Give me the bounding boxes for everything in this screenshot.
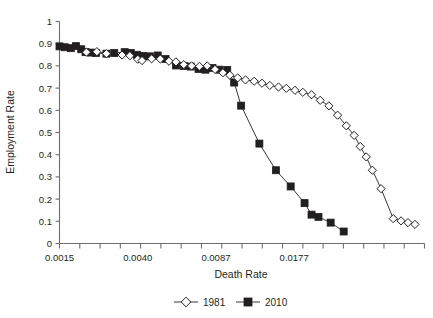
y-tick-label: 0.3 — [39, 171, 52, 182]
data-point-1981 — [299, 88, 307, 96]
series-path — [86, 52, 415, 225]
series-1981-markers — [82, 48, 419, 229]
data-point-2010 — [238, 102, 245, 109]
death-rate-employment-rate-chart: 10.90.80.70.60.50.40.30.20.10 0.00150.00… — [0, 0, 433, 318]
x-axis-title: Death Rate — [214, 268, 267, 280]
data-point-2010 — [327, 219, 334, 226]
open-diamond-icon — [181, 297, 191, 307]
x-axis-tick-labels: 0.00150.00400.00870.0177 — [45, 252, 309, 263]
legend-label-2010: 2010 — [265, 297, 288, 308]
y-tick-label: 0.1 — [39, 216, 52, 227]
data-point-1981 — [404, 219, 412, 227]
data-point-2010 — [272, 167, 279, 174]
y-tick-label: 0 — [47, 238, 52, 249]
y-tick-label: 1 — [47, 16, 52, 27]
data-point-1981 — [368, 166, 376, 174]
x-tick-label: 0.0087 — [201, 252, 230, 263]
y-axis-title: Employment Rate — [4, 90, 16, 174]
data-point-1981 — [397, 217, 405, 225]
data-point-2010 — [308, 211, 315, 218]
data-point-1981 — [282, 84, 290, 92]
data-point-2010 — [315, 213, 322, 220]
y-tick-label: 0.2 — [39, 194, 52, 205]
series-2010-markers — [56, 43, 347, 235]
y-axis-tick-labels: 10.90.80.70.60.50.40.30.20.10 — [39, 16, 52, 249]
data-point-1981 — [291, 86, 299, 94]
data-point-1981 — [266, 81, 274, 89]
y-tick-label: 0.4 — [39, 149, 52, 160]
y-tick-label: 0.8 — [39, 60, 52, 71]
data-point-1981 — [258, 79, 266, 87]
y-tick-label: 0.6 — [39, 105, 52, 116]
x-tick-label: 0.0177 — [280, 252, 309, 263]
data-point-1981 — [250, 77, 258, 85]
y-tick-label: 0.9 — [39, 38, 52, 49]
data-point-1981 — [411, 220, 419, 228]
y-axis-ticks — [56, 22, 60, 244]
data-point-1981 — [307, 91, 315, 99]
data-point-1981 — [356, 142, 364, 150]
x-tick-label: 0.0040 — [123, 252, 152, 263]
chart-legend: 1981 2010 — [174, 297, 288, 308]
x-tick-label: 0.0015 — [45, 252, 74, 263]
data-point-2010 — [256, 140, 263, 147]
data-point-1981 — [389, 215, 397, 223]
series-1981-line — [86, 52, 415, 225]
filled-square-icon — [244, 298, 252, 306]
y-tick-label: 0.5 — [39, 127, 52, 138]
data-point-1981 — [274, 83, 282, 91]
data-point-1981 — [241, 76, 249, 84]
data-point-2010 — [287, 183, 294, 190]
y-tick-label: 0.7 — [39, 83, 52, 94]
data-point-1981 — [316, 96, 324, 104]
data-point-1981 — [362, 153, 370, 161]
chart-container: 10.90.80.70.60.50.40.30.20.10 0.00150.00… — [0, 0, 433, 318]
data-point-2010 — [340, 228, 347, 235]
data-point-2010 — [111, 50, 118, 57]
data-point-1981 — [377, 185, 385, 193]
legend-label-1981: 1981 — [203, 297, 226, 308]
data-point-2010 — [301, 200, 308, 207]
x-axis-ticks — [60, 244, 425, 249]
